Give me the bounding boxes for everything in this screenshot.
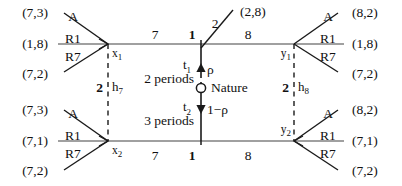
payoff-left-1: (7,3) xyxy=(22,6,48,20)
info-set-h7-sub: 7 xyxy=(119,86,124,96)
edge-label-bottom-left: 7 xyxy=(152,149,159,163)
payoff-right-3: (7,2) xyxy=(352,67,378,81)
node-y1-sub: 1 xyxy=(287,52,292,62)
action-right-bottom-R1: R1 xyxy=(320,129,336,143)
payoff-right-1: (8,2) xyxy=(352,6,378,20)
node-label-y2: y2 xyxy=(281,124,291,138)
info-set-h8-sub: 8 xyxy=(305,86,310,96)
action-right-top-R7: R7 xyxy=(320,50,336,64)
edge-label-top-right: 8 xyxy=(245,28,252,42)
nature-label: Nature xyxy=(211,81,248,95)
action-right-top-R1: R1 xyxy=(320,32,336,46)
payoff-left-3: (7,2) xyxy=(22,67,48,81)
edge-label-top-diagonal: 2 xyxy=(212,17,219,31)
action-right-bottom-A: A xyxy=(323,107,333,121)
edge-label-top-left: 7 xyxy=(152,28,159,42)
info-set-label-h7: h7 xyxy=(112,80,123,96)
payoff-right-4: (8,2) xyxy=(352,103,378,117)
payoff-right-5: (7,1) xyxy=(352,134,378,148)
payoff-top-center: (2,8) xyxy=(240,5,266,19)
edge-label-bottom-right: 8 xyxy=(245,149,252,163)
payoff-left-4: (7,3) xyxy=(22,103,48,117)
nature-down-probability: 1−ρ xyxy=(207,103,228,117)
info-set-label-h8: h8 xyxy=(298,80,309,96)
action-left-bottom-R7: R7 xyxy=(65,147,81,161)
info-set-player-h7: 2 xyxy=(96,81,103,95)
game-tree-figure: (7,3) (1,8) (7,2) (7,3) (7,1) (7,2) (8,2… xyxy=(0,0,402,186)
nature-arrow-down xyxy=(196,105,205,114)
node-label-x1: x1 xyxy=(112,48,122,62)
node-y2-sub: 2 xyxy=(287,128,292,138)
node-x2-sub: 2 xyxy=(118,149,123,159)
node-label-y1: y1 xyxy=(281,48,291,62)
payoff-right-2: (1,8) xyxy=(352,37,378,51)
nature-chance-node-circle xyxy=(196,83,205,92)
payoff-right-6: (7,2) xyxy=(352,164,378,178)
action-left-top-R1: R1 xyxy=(65,32,81,46)
action-left-top-A: A xyxy=(68,10,78,24)
nature-arrow-up xyxy=(196,63,205,72)
action-left-bottom-A: A xyxy=(68,107,78,121)
nature-up-duration: 2 periods xyxy=(144,72,194,86)
node-label-x2: x2 xyxy=(112,145,122,159)
info-set-player-h8: 2 xyxy=(282,81,289,95)
nature-up-probability: ρ xyxy=(207,63,214,77)
payoff-left-2: (1,8) xyxy=(22,37,48,51)
payoff-left-6: (7,2) xyxy=(22,164,48,178)
node-label-top-center-player: 1 xyxy=(189,28,196,42)
node-x1-sub: 1 xyxy=(118,52,123,62)
tree-graphics xyxy=(0,0,402,186)
action-right-bottom-R7: R7 xyxy=(320,147,336,161)
nature-down-duration: 3 periods xyxy=(144,114,194,128)
action-right-top-A: A xyxy=(323,10,333,24)
action-left-top-R7: R7 xyxy=(65,50,81,64)
payoff-left-5: (7,1) xyxy=(22,134,48,148)
node-label-bottom-center-player: 1 xyxy=(189,149,196,163)
action-left-bottom-R1: R1 xyxy=(65,129,81,143)
